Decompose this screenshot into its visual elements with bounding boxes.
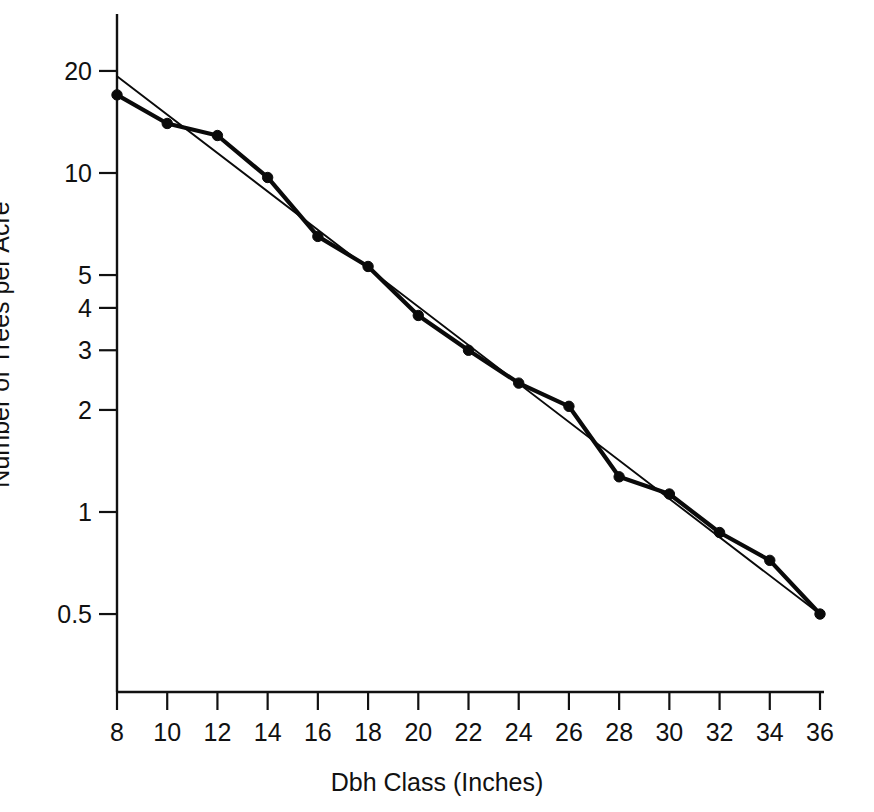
data-point-markers	[112, 90, 825, 620]
data-point-marker	[564, 401, 574, 411]
x-tick-label: 24	[505, 718, 533, 747]
data-point-marker	[765, 555, 775, 565]
x-tick-label: 34	[756, 718, 784, 747]
x-tick-label: 14	[254, 718, 282, 747]
data-point-marker	[313, 231, 323, 241]
x-tick-label: 8	[110, 718, 124, 747]
data-point-marker	[112, 90, 122, 100]
data-point-marker	[212, 130, 222, 140]
x-tick-label: 28	[605, 718, 633, 747]
x-tick-label: 32	[706, 718, 734, 747]
x-tick-label: 12	[204, 718, 232, 747]
x-tick-label: 30	[655, 718, 683, 747]
x-tick-label: 18	[354, 718, 382, 747]
data-point-marker	[363, 261, 373, 271]
y-tick-label: 0.5	[0, 600, 92, 629]
chart-figure: 2010543210.5 810121416182022242628303234…	[0, 0, 874, 812]
data-point-marker	[815, 609, 825, 619]
data-point-marker	[514, 378, 524, 388]
data-point-marker	[162, 118, 172, 128]
x-tick-label: 22	[455, 718, 483, 747]
data-point-marker	[463, 345, 473, 355]
x-tick-label: 36	[806, 718, 834, 747]
x-tick-label: 10	[153, 718, 181, 747]
x-tick-label: 16	[304, 718, 332, 747]
y-axis-ticks	[99, 71, 117, 614]
data-point-marker	[664, 489, 674, 499]
y-tick-label: 20	[0, 56, 92, 85]
x-tick-label: 20	[404, 718, 432, 747]
x-axis-ticks	[117, 692, 820, 710]
data-point-marker	[413, 310, 423, 320]
y-axis-title: Number of Trees per Acre	[0, 145, 15, 545]
data-point-marker	[614, 472, 624, 482]
plot-area	[0, 0, 874, 812]
data-point-marker	[262, 172, 272, 182]
data-point-marker	[714, 527, 724, 537]
x-axis-title: Dbh Class (Inches)	[0, 768, 874, 797]
x-tick-label: 26	[555, 718, 583, 747]
